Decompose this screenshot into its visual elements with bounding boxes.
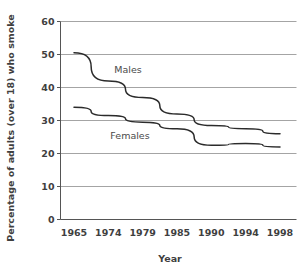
series-label-females: Females	[110, 130, 149, 141]
y-tick-label-60: 60	[41, 16, 55, 27]
x-tick-label-1994: 1994	[232, 227, 259, 238]
y-tick-label-20: 20	[41, 148, 55, 159]
x-tick-label-group: 1965197419791985199019941998	[61, 227, 294, 238]
series-annotation-group: MalesFemales	[110, 64, 149, 141]
smoking-prevalence-line-chart: 0102030405060 19651974197919851990199419…	[0, 0, 304, 271]
y-tick-label-10: 10	[41, 181, 55, 192]
x-tick-label-1965: 1965	[61, 227, 87, 238]
y-tick-label-group: 0102030405060	[41, 16, 60, 225]
chart-canvas: 0102030405060 19651974197919851990199419…	[0, 0, 304, 271]
x-tick-label-1979: 1979	[129, 227, 155, 238]
series-line-males	[74, 53, 280, 134]
y-tick-label-40: 40	[41, 82, 55, 93]
x-axis-title: Year	[157, 253, 182, 264]
y-axis-title: Percentage of adults (over 18) who smoke	[5, 14, 16, 241]
y-tick-label-30: 30	[41, 115, 55, 126]
x-tick-label-1985: 1985	[164, 227, 190, 238]
gridline-group	[61, 22, 297, 187]
y-tick-label-0: 0	[48, 214, 55, 225]
series-label-males: Males	[114, 64, 142, 75]
data-series-group	[74, 53, 280, 147]
x-tick-label-1990: 1990	[198, 227, 225, 238]
x-tick-label-1998: 1998	[267, 227, 294, 238]
x-tick-label-1974: 1974	[95, 227, 122, 238]
y-tick-label-50: 50	[41, 49, 55, 60]
